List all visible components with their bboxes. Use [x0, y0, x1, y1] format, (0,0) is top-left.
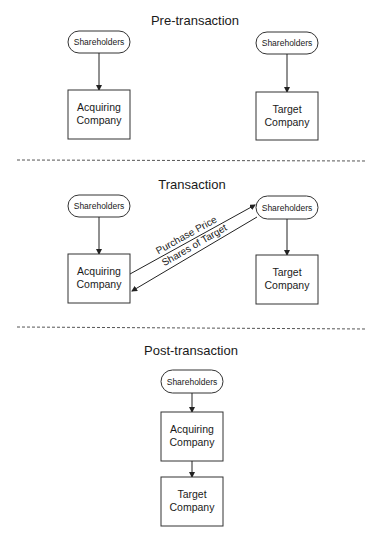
post-target-company-node: Target Company	[161, 477, 223, 526]
pre-target-company-node: Target Company	[256, 92, 318, 140]
post-acquiring-company-line1: Acquiring	[170, 423, 214, 435]
pre-acquiring-company-line1: Acquiring	[77, 101, 121, 113]
section-divider-1	[17, 160, 366, 161]
post-transaction-title: Post-transaction	[144, 343, 238, 358]
pre-transaction-title: Pre-transaction	[151, 13, 239, 28]
post-target-company-line2: Company	[170, 501, 216, 513]
pre-target-company-line2: Company	[265, 116, 311, 128]
post-acquiring-company-node: Acquiring Company	[161, 412, 223, 461]
pre-target-shareholders-label: Shareholders	[262, 38, 313, 48]
transaction-title: Transaction	[158, 177, 225, 192]
pre-acquirer-shareholders-label: Shareholders	[74, 37, 125, 47]
pre-transaction-section: Pre-transaction Shareholders Acquiring C…	[68, 13, 318, 140]
post-shareholders-node: Shareholders	[161, 370, 223, 393]
tx-acquiring-company-line1: Acquiring	[77, 265, 121, 277]
tx-acquiring-company-line2: Company	[77, 278, 123, 290]
pre-target-company-line1: Target	[272, 103, 301, 115]
transaction-section: Transaction Shareholders Acquiring Compa…	[68, 177, 318, 304]
tx-target-shareholders-label: Shareholders	[262, 203, 313, 213]
tx-target-shareholders-node: Shareholders	[256, 196, 318, 219]
pre-acquiring-company-node: Acquiring Company	[68, 90, 130, 139]
pre-acquirer-shareholders-node: Shareholders	[68, 31, 130, 53]
post-shareholders-label: Shareholders	[167, 377, 218, 387]
merger-diagram: Pre-transaction Shareholders Acquiring C…	[0, 0, 380, 533]
tx-target-company-line2: Company	[265, 279, 311, 291]
pre-target-shareholders-node: Shareholders	[256, 32, 318, 54]
tx-target-company-line1: Target	[272, 266, 301, 278]
tx-acquirer-shareholders-label: Shareholders	[74, 201, 125, 211]
tx-acquirer-shareholders-node: Shareholders	[68, 195, 130, 217]
tx-acquiring-company-node: Acquiring Company	[68, 254, 130, 303]
post-target-company-line1: Target	[177, 488, 206, 500]
post-acquiring-company-line2: Company	[170, 436, 216, 448]
pre-acquiring-company-line2: Company	[77, 114, 123, 126]
section-divider-2	[17, 327, 366, 329]
tx-target-company-node: Target Company	[256, 255, 318, 304]
post-transaction-section: Post-transaction Shareholders Acquiring …	[144, 343, 238, 526]
